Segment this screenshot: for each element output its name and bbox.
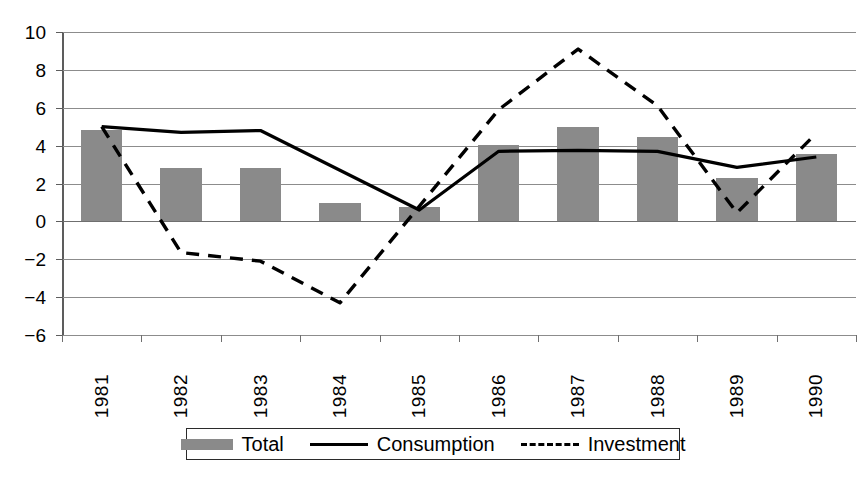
legend-label-investment: Investment <box>588 434 686 454</box>
x-axis-tick-label: 1990 <box>806 374 825 418</box>
y-axis-tick-label: 4 <box>35 136 46 155</box>
line-series-layer <box>62 32 856 335</box>
y-axis-tick-label: −4 <box>24 288 46 307</box>
legend-entry-consumption: Consumption <box>310 434 495 454</box>
x-axis-tick-label: 1984 <box>330 374 349 418</box>
x-tick-mark <box>856 335 857 342</box>
legend-entry-total: Total <box>181 434 284 454</box>
x-axis-tick-label: 1988 <box>648 374 667 418</box>
solid-line-icon <box>310 443 368 446</box>
plot-area <box>62 32 856 335</box>
legend-label-total: Total <box>242 434 284 454</box>
y-axis-tick-label: −6 <box>24 326 46 345</box>
chart-figure: 1086420−2−4−6 19811982198319841985198619… <box>0 0 866 477</box>
y-axis-tick-label: 6 <box>35 98 46 117</box>
x-axis-tick-label: 1983 <box>251 374 270 418</box>
y-axis-tick-label: 8 <box>35 60 46 79</box>
x-axis-labels: 1981198219831984198519861987198819891990 <box>62 340 856 418</box>
y-axis-tick-label: 2 <box>35 174 46 193</box>
dashed-line-icon <box>521 443 579 446</box>
x-axis-tick-label: 1986 <box>489 374 508 418</box>
x-axis-tick-label: 1987 <box>568 374 587 418</box>
legend-entry-investment: Investment <box>521 434 686 454</box>
x-axis-tick-label: 1989 <box>727 374 746 418</box>
x-axis-tick-label: 1985 <box>409 374 428 418</box>
y-axis-tick-label: 0 <box>35 212 46 231</box>
y-axis-tick-label: 10 <box>25 23 46 42</box>
legend-label-consumption: Consumption <box>377 434 495 454</box>
y-axis-tick-label: −2 <box>24 250 46 269</box>
line-investment <box>102 49 817 303</box>
bar-swatch-icon <box>181 439 233 450</box>
line-consumption <box>102 127 817 210</box>
x-axis-tick-label: 1981 <box>92 374 111 418</box>
chart-legend: Total Consumption Investment <box>186 428 680 460</box>
x-axis-tick-label: 1982 <box>171 374 190 418</box>
y-axis-labels: 1086420−2−4−6 <box>0 0 46 477</box>
